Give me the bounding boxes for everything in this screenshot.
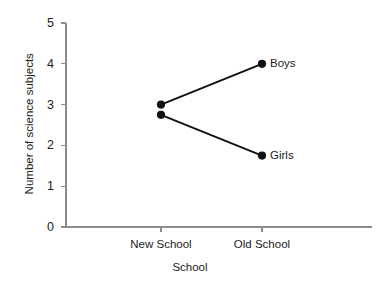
data-point-marker [157, 111, 165, 119]
data-point-marker [258, 60, 266, 68]
x-tick-marks [161, 227, 262, 232]
data-point-marker [157, 101, 165, 109]
series-label-boys: Boys [270, 58, 296, 70]
y-tick-label: 5 [20, 17, 54, 30]
series-lines-group [161, 64, 262, 156]
chart-figure: 012345 New SchoolOld School BoysGirls Sc… [0, 0, 380, 283]
y-tick-label: 0 [20, 221, 54, 234]
x-tick-label: Old School [202, 239, 322, 251]
y-tick-marks [61, 23, 66, 227]
series-line-boys [161, 64, 262, 105]
series-line-girls [161, 115, 262, 156]
x-axis-title: School [0, 262, 380, 274]
series-label-girls: Girls [270, 150, 294, 162]
y-axis-title: Number of science subjects [24, 34, 36, 214]
series-markers-group [157, 60, 266, 160]
axes-group [66, 23, 372, 227]
data-point-marker [258, 152, 266, 160]
